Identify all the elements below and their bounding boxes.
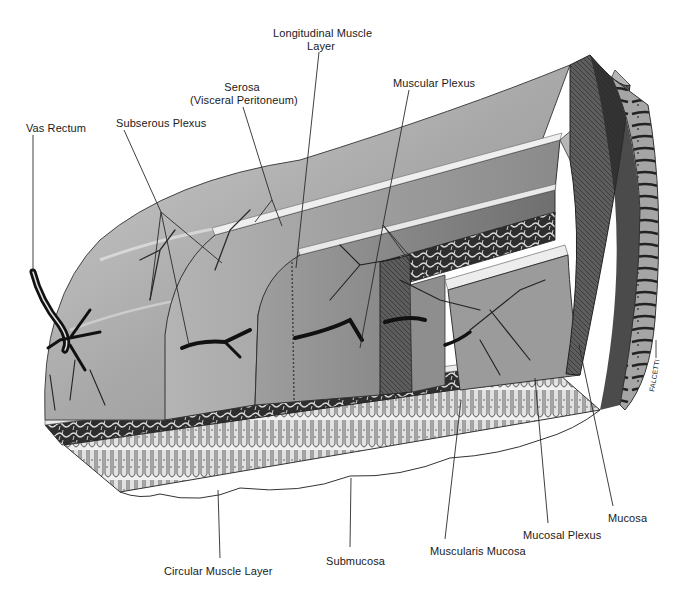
leader-line-circular-muscle-layer bbox=[218, 490, 220, 558]
label-longitudinal-line2: Layer bbox=[273, 40, 369, 53]
illustration: FALCETTI bbox=[0, 0, 682, 599]
label-serosa-line1: Serosa bbox=[190, 81, 294, 94]
label-subserous-plexus: Subserous Plexus bbox=[116, 117, 206, 130]
label-submucosa: Submucosa bbox=[326, 555, 385, 568]
label-muscularis-mucosa: Muscularis Mucosa bbox=[430, 545, 526, 558]
label-circular-muscle-layer: Circular Muscle Layer bbox=[164, 565, 272, 578]
label-longitudinal-muscle-layer: Longitudinal Muscle Layer bbox=[273, 27, 369, 53]
label-serosa-line2: (Visceral Peritoneum) bbox=[190, 94, 294, 107]
leader-line-submucosa bbox=[350, 478, 351, 547]
label-mucosal-plexus: Mucosal Plexus bbox=[523, 529, 601, 542]
intestinal-wall-diagram: FALCETTI Vas Rectum Subserous Plexus Ser… bbox=[0, 0, 682, 599]
artist-signature: FALCETTI bbox=[648, 359, 661, 392]
label-serosa: Serosa (Visceral Peritoneum) bbox=[190, 81, 294, 107]
label-mucosa: Mucosa bbox=[608, 512, 647, 525]
cross-section-end bbox=[560, 55, 659, 410]
label-longitudinal-line1: Longitudinal Muscle bbox=[273, 27, 369, 40]
label-vas-rectum: Vas Rectum bbox=[26, 122, 86, 135]
leader-line-subserous-plexus bbox=[124, 130, 161, 212]
label-muscular-plexus: Muscular Plexus bbox=[393, 77, 475, 90]
